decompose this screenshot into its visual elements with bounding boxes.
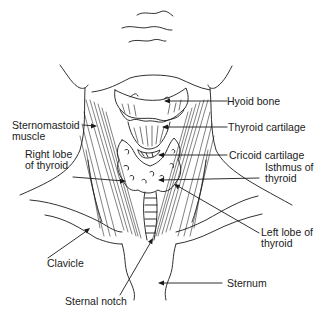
hyoid-bone-shape [115,88,189,121]
thyroid-cartilage-shape [120,100,184,149]
thyroid-anatomy-diagram: Hyoid bone Thyroid cartilage Sternomasto… [0,0,324,317]
jaw-outline [60,65,232,92]
label-right-lobe-line2: of thyroid [25,160,68,171]
label-isthmus-line2: thyroid [265,173,297,184]
thyroid-gland-shape [117,138,180,193]
label-sternomastoid-line2: muscle [12,131,45,142]
trachea [144,192,158,240]
label-cricoid-cartilage: Cricoid cartilage [229,150,304,161]
label-sternal-notch: Sternal notch [65,296,127,307]
chin-lines [122,11,173,42]
label-left-lobe-line2: thyroid [261,238,293,249]
cricoid-cartilage-shape [138,150,160,158]
label-clavicle: Clavicle [47,258,84,269]
label-sternum: Sternum [227,278,267,289]
sternum-shape [122,244,176,300]
label-thyroid-cartilage: Thyroid cartilage [228,122,306,133]
label-hyoid-bone: Hyoid bone [227,96,280,107]
